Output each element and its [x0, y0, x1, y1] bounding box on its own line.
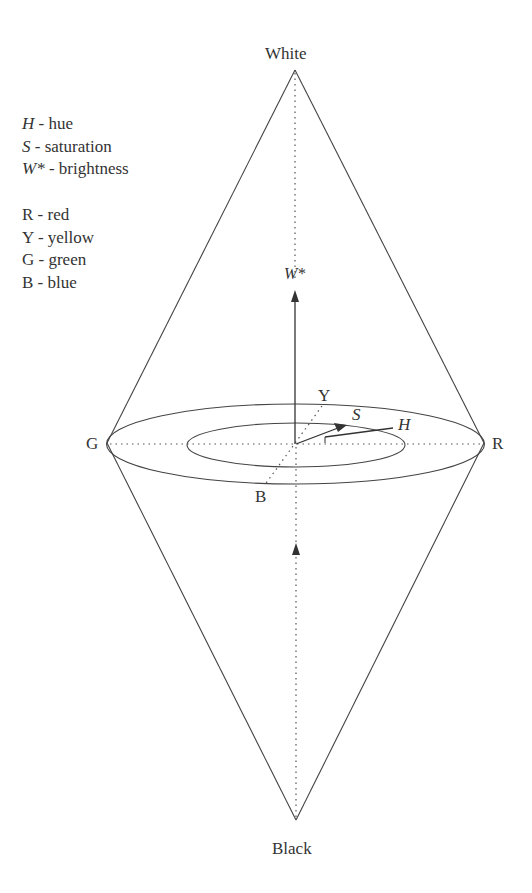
inner-hue-circle	[187, 423, 405, 467]
red-label: R	[492, 435, 503, 452]
brightness-arrowhead	[291, 290, 299, 302]
color-legend: R - red Y - yellow G - green B - blue	[22, 204, 94, 294]
saturation-label: S	[352, 406, 361, 423]
yellow-label: Y	[318, 387, 330, 404]
blue-label: B	[255, 488, 266, 505]
legend-item-hue: H - hue	[22, 113, 129, 136]
saturation-arrowhead	[334, 423, 347, 432]
lower-left-edge	[107, 443, 296, 820]
white-label: White	[265, 45, 307, 62]
yellow-blue-axis	[264, 406, 322, 486]
lower-right-edge	[296, 443, 484, 820]
upper-left-edge	[107, 70, 295, 443]
brightness-label: W*	[284, 266, 305, 282]
lower-axis-arrowhead	[292, 543, 300, 555]
legend-item-blue: B - blue	[22, 272, 94, 295]
legend-item-saturation: S - saturation	[22, 136, 129, 159]
legend-item-red: R - red	[22, 204, 94, 227]
hue-label: H	[398, 416, 410, 433]
legend-item-brightness: W* - brightness	[22, 158, 129, 181]
legend-item-yellow: Y - yellow	[22, 227, 94, 250]
green-label: G	[86, 435, 98, 452]
legend-item-green: G - green	[22, 249, 94, 272]
black-label: Black	[272, 840, 312, 857]
variable-legend: H - hue S - saturation W* - brightness	[22, 113, 129, 181]
